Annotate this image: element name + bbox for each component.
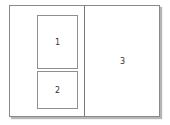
region-2-label: 2 [55, 86, 60, 95]
region-1: 1 [37, 15, 78, 69]
region-2: 2 [37, 71, 78, 109]
region-3-label: 3 [120, 57, 125, 66]
region-3: 3 [85, 5, 160, 117]
region-1-label: 1 [55, 38, 60, 47]
